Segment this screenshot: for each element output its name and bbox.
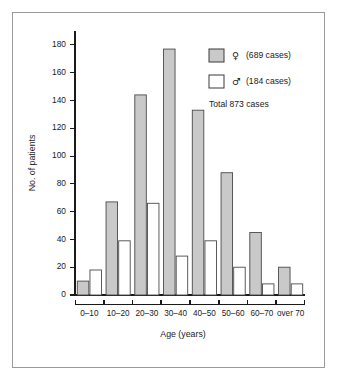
x-group-bracket bbox=[277, 300, 305, 304]
chart-legend: ♀ (689 cases) ♂ (184 cases) Total 873 ca… bbox=[209, 49, 291, 109]
y-tick-label: 0 bbox=[61, 289, 66, 299]
y-tick-label: 80 bbox=[57, 178, 67, 188]
x-group-bracket bbox=[104, 300, 132, 304]
bar-male bbox=[262, 284, 274, 295]
x-tick-label: 40–50 bbox=[193, 309, 216, 318]
x-group-bracket bbox=[75, 300, 103, 304]
legend-male-symbol: ♂ bbox=[232, 76, 241, 87]
y-tick-label: 20 bbox=[57, 261, 67, 271]
legend-male-cases: (184 cases) bbox=[246, 76, 291, 86]
y-axis-title: No. of patients bbox=[27, 134, 37, 191]
x-group-bracket bbox=[248, 300, 276, 304]
x-tick-label: over 70 bbox=[277, 309, 305, 318]
x-group-bracket bbox=[162, 300, 190, 304]
bar-male bbox=[90, 270, 102, 295]
y-tick-label: 120 bbox=[52, 122, 66, 132]
y-tick-label: 60 bbox=[57, 206, 67, 216]
y-tick-label: 40 bbox=[57, 234, 67, 244]
bar-male bbox=[119, 241, 131, 295]
bar-female bbox=[279, 267, 291, 295]
bar-chart: 020406080100120140160180 0–1010–2020–303… bbox=[13, 13, 326, 369]
figure-frame: 020406080100120140160180 0–1010–2020–303… bbox=[12, 12, 325, 368]
x-axis-title: Age (years) bbox=[160, 329, 206, 339]
x-tick-label: 10–20 bbox=[107, 309, 130, 318]
y-tick-label: 180 bbox=[52, 39, 66, 49]
y-tick-label: 140 bbox=[52, 95, 66, 105]
y-tick-label: 100 bbox=[52, 150, 66, 160]
bar-male bbox=[205, 241, 217, 295]
bar-female bbox=[77, 281, 89, 295]
bar-female bbox=[221, 173, 233, 295]
bar-male bbox=[147, 203, 159, 295]
y-tick-label: 160 bbox=[52, 67, 66, 77]
x-tick-label: 0–10 bbox=[80, 309, 99, 318]
bar-female bbox=[192, 110, 204, 295]
x-axis: 0–1010–2020–3030–4040–5050–6060–70over 7… bbox=[75, 295, 305, 318]
x-group-bracket bbox=[219, 300, 247, 304]
x-tick-label: 20–30 bbox=[135, 309, 158, 318]
bar-female bbox=[164, 49, 176, 295]
legend-female-cases: (689 cases) bbox=[246, 50, 291, 60]
bar-female bbox=[106, 202, 118, 295]
x-tick-label: 30–40 bbox=[164, 309, 187, 318]
legend-total: Total 873 cases bbox=[209, 99, 269, 109]
legend-swatch-male bbox=[209, 75, 224, 88]
legend-swatch-female bbox=[209, 49, 224, 62]
legend-female-symbol: ♀ bbox=[232, 50, 239, 61]
bar-male bbox=[234, 267, 246, 295]
bar-male bbox=[291, 284, 303, 295]
bar-male bbox=[176, 256, 188, 295]
x-tick-label: 50–60 bbox=[222, 309, 245, 318]
x-group-bracket bbox=[190, 300, 218, 304]
x-group-bracket bbox=[133, 300, 161, 304]
bar-female bbox=[135, 95, 147, 295]
y-axis: 020406080100120140160180 bbox=[52, 31, 75, 299]
x-tick-label: 60–70 bbox=[250, 309, 273, 318]
bar-female bbox=[250, 232, 261, 295]
